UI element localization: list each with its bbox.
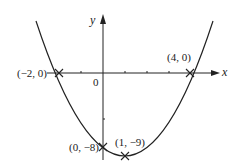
y-axis-label: y (90, 14, 95, 26)
point-label-vertex: (1, −9) (115, 137, 145, 148)
x-axis-arrow-icon (211, 70, 220, 76)
x-axis-label: x (222, 66, 227, 78)
origin-label: 0 (93, 77, 99, 88)
point-label-y-intercept: (0, −8) (69, 142, 99, 153)
y-axis (100, 14, 106, 160)
point-label-left-intercept: (−2, 0) (17, 68, 47, 79)
point-label-right-intercept: (4, 0) (167, 52, 191, 63)
y-axis-arrow-icon (100, 14, 106, 24)
